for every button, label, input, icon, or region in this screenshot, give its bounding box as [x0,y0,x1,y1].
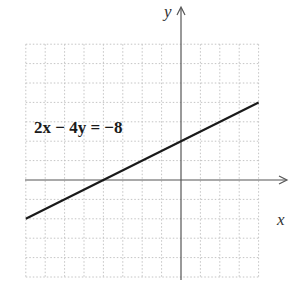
x-axis-label: x [277,210,285,230]
coordinate-plane [0,0,305,297]
y-axis-label: y [164,2,172,22]
equation-label: 2x − 4y = −8 [34,118,123,138]
